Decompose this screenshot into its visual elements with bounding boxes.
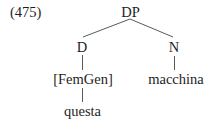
node-d: D [77,40,87,54]
node-dp: DP [121,5,140,19]
node-femgen-feature: [FemGen] [53,72,113,86]
node-n: N [169,40,179,54]
tree-edges [0,0,213,126]
node-questa: questa [64,104,101,118]
edge-dp-d [83,19,130,37]
syntax-tree-diagram: (475) DP D N [FemGen] macchina questa [0,0,213,126]
edge-dp-n [130,19,173,37]
node-macchina: macchina [148,72,204,86]
